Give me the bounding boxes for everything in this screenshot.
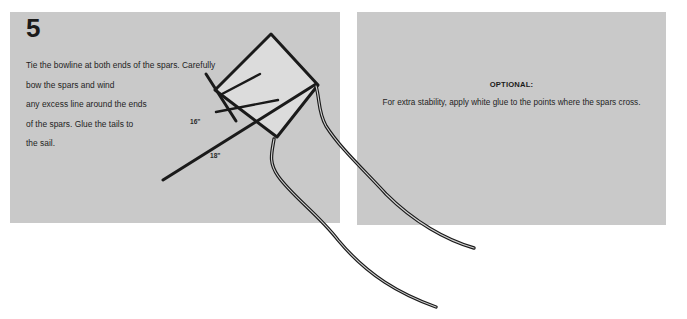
instruction-sheet: 5 Tie the bowline at both ends of the sp… (0, 0, 687, 319)
step-instruction-text: Tie the bowline at both ends of the spar… (26, 56, 236, 154)
step-number: 5 (26, 15, 40, 41)
optional-note-text: For extra stability, apply white glue to… (357, 98, 666, 107)
optional-label: OPTIONAL: (357, 80, 666, 89)
optional-panel-right (357, 12, 666, 225)
